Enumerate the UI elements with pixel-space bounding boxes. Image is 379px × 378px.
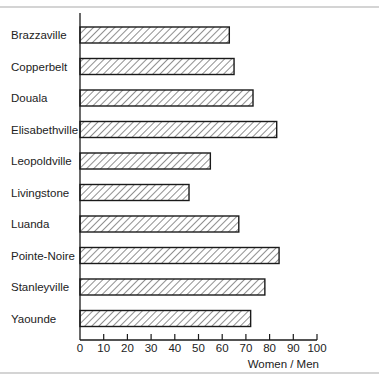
tick-label: 100 bbox=[307, 342, 326, 354]
category-label: Yaounde bbox=[11, 313, 56, 325]
bar-stanleyville bbox=[80, 279, 265, 295]
bars-group bbox=[80, 27, 279, 327]
category-label: Pointe-Noire bbox=[11, 250, 75, 262]
bar-brazzaville bbox=[80, 27, 229, 43]
category-label: Elisabethville bbox=[11, 124, 78, 136]
x-axis-ticks: 0102030405060708090100 bbox=[77, 334, 327, 354]
tick-label: 30 bbox=[145, 342, 158, 354]
bar-chart: BrazzavilleCopperbeltDoualaElisabethvill… bbox=[0, 0, 379, 378]
bar-elisabethville bbox=[80, 122, 277, 138]
bar-douala bbox=[80, 90, 253, 106]
tick-label: 10 bbox=[97, 342, 110, 354]
x-axis-label: Women / Men bbox=[248, 358, 319, 370]
category-label: Brazzaville bbox=[11, 29, 67, 41]
bar-leopoldville bbox=[80, 153, 210, 169]
tick-label: 70 bbox=[240, 342, 253, 354]
category-label: Douala bbox=[11, 92, 48, 104]
tick-label: 90 bbox=[287, 342, 300, 354]
tick-label: 0 bbox=[77, 342, 83, 354]
bar-livingstone bbox=[80, 185, 189, 201]
category-label: Luanda bbox=[11, 218, 50, 230]
tick-label: 60 bbox=[216, 342, 229, 354]
bar-luanda bbox=[80, 216, 239, 232]
tick-label: 80 bbox=[263, 342, 276, 354]
category-labels: BrazzavilleCopperbeltDoualaElisabethvill… bbox=[11, 29, 78, 325]
category-label: Copperbelt bbox=[11, 61, 68, 73]
category-label: Stanleyville bbox=[11, 281, 69, 293]
tick-label: 20 bbox=[121, 342, 134, 354]
bar-pointe-noire bbox=[80, 248, 279, 264]
category-label: Livingstone bbox=[11, 187, 69, 199]
category-label: Leopoldville bbox=[11, 155, 72, 167]
tick-label: 50 bbox=[192, 342, 205, 354]
bar-copperbelt bbox=[80, 59, 234, 75]
bar-yaounde bbox=[80, 311, 251, 327]
tick-label: 40 bbox=[168, 342, 181, 354]
